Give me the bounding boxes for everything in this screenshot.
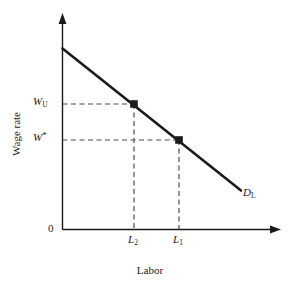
y-axis [59,13,67,230]
x-axis-title: Labor [115,264,185,276]
x-tick-label-l2: L2 [128,233,138,245]
y-tick-label-wstar: W* [33,131,47,143]
dl-base: D [243,186,251,198]
labor-demand-figure: Wage rate Labor 0 WU W* L2 L1 DL [0,0,293,293]
l1-subscript: 1 [179,238,183,247]
y-axis-title: Wage rate [10,99,22,169]
wu-base: W [33,95,42,107]
wu-subscript: U [42,100,47,109]
marker-point-wstar-l1 [175,136,183,144]
plot-area [0,0,293,293]
y-tick-label-wu: WU [33,95,48,107]
l2-subscript: 2 [134,238,138,247]
wstar-base: W [33,131,42,143]
origin-label: 0 [48,222,54,234]
dl-subscript: L [251,191,256,200]
x-tick-label-l1: L1 [173,233,183,245]
curve-label-dl: DL [243,186,256,198]
x-axis [63,226,282,234]
wstar-superscript: * [42,130,47,140]
labor-demand-curve [63,49,242,191]
marker-point-wu-l2 [130,100,138,108]
